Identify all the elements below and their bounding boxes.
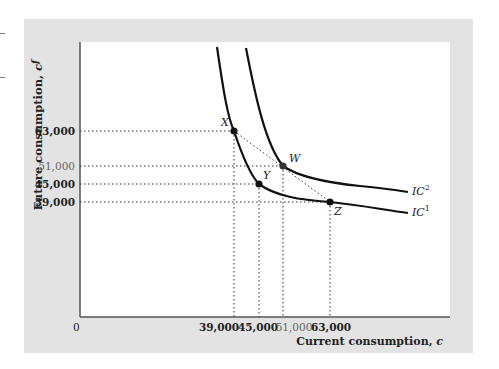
label-z: Z [334,205,342,218]
ic1-label: IC1 [412,204,430,219]
ic2-label: IC2 [412,183,430,198]
y-tick-39000: 39,000 [35,196,75,208]
point-z [326,198,333,205]
x-tick-51000: 51,000 [276,321,313,333]
point-w [279,162,286,169]
x-tick-63000: 63,000 [311,321,351,333]
y-tick-45000: 45,000 [35,178,75,190]
y-tick-63000: 63,000 [35,125,75,137]
label-y: Y [263,169,270,182]
label-x: X [221,116,229,129]
x-tick-39000: 39,000 [199,321,239,333]
origin-label: 0 [73,321,80,333]
x-axis-label: Current consumption, c [296,335,443,348]
point-x [230,127,237,134]
point-y [255,180,262,187]
vertical-guides [234,131,330,317]
x-tick-45000: 45,000 [238,321,278,333]
ic2-curve [246,48,408,192]
label-w: W [289,152,300,165]
y-tick-51000: 51,000 [38,160,75,172]
horizontal-guides [80,131,330,202]
